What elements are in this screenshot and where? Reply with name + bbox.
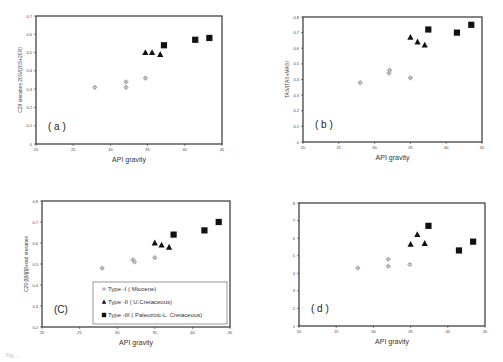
y-tick-label: 2: [293, 306, 296, 311]
diamond-marker: [386, 264, 391, 269]
x-tick-label: 40: [446, 329, 451, 334]
diamond-marker: [407, 262, 412, 267]
y-tick-label: 7: [293, 218, 296, 223]
data-series: [425, 223, 476, 254]
diamond-marker: [386, 257, 391, 262]
triangle-marker: [414, 231, 420, 237]
y-tick-label: 3: [293, 288, 296, 293]
data-series: [355, 257, 412, 271]
triangle-marker: [422, 240, 428, 246]
square-marker: [425, 223, 431, 229]
x-tick-label: 30: [371, 329, 376, 334]
y-tick-label: 1: [293, 324, 296, 329]
y-tick-label: 5: [293, 253, 296, 258]
chart-panel-d: 20253035404512345678API gravity( d ): [0, 0, 503, 362]
triangle-marker: [408, 241, 414, 247]
y-tick-label: 4: [293, 271, 296, 276]
diamond-marker: [355, 265, 360, 270]
y-tick-label: 6: [293, 236, 296, 241]
scatter-plot-d: 20253035404512345678API gravity( d ): [0, 0, 503, 362]
figure-caption: Fig. ...: [6, 352, 20, 358]
y-tick-label: 8: [293, 201, 296, 206]
x-tick-label: 25: [334, 329, 339, 334]
square-marker: [456, 247, 462, 253]
x-tick-label: 35: [408, 329, 413, 334]
square-marker: [470, 239, 476, 245]
panel-label: ( d ): [311, 303, 329, 314]
x-tick-label: 20: [297, 329, 302, 334]
data-series: [408, 231, 428, 247]
x-axis-title: API gravity: [375, 338, 409, 346]
x-tick-label: 45: [483, 329, 488, 334]
